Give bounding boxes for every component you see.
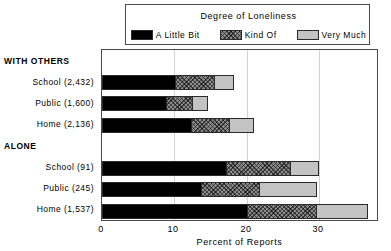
- bar-segment-kind-of: [175, 75, 214, 90]
- bar-segment-kind-of: [191, 118, 229, 133]
- gridline-30: [319, 50, 320, 220]
- group-label-with-others: WITH OTHERS: [4, 56, 96, 66]
- category-label-school-with-others: School (2,432): [2, 77, 94, 87]
- bar-segment-very-much: [214, 75, 234, 90]
- plot-area: [101, 49, 378, 221]
- bar-home-with-others: [102, 118, 254, 133]
- bar-segment-kind-of: [166, 96, 192, 111]
- bar-segment-a-little-bit: [102, 96, 166, 111]
- bar-segment-kind-of: [201, 182, 259, 197]
- legend: Degree of Loneliness A Little Bit Kind O…: [125, 4, 370, 45]
- xtick-10: 10: [167, 224, 178, 234]
- category-label-school-alone: School (91): [2, 162, 94, 172]
- xtick-0: 0: [98, 224, 104, 234]
- bar-segment-a-little-bit: [102, 204, 247, 219]
- bar-segment-a-little-bit: [102, 161, 226, 176]
- legend-items: A Little Bit Kind Of Very Much: [126, 28, 371, 41]
- legend-label-very-much: Very Much: [322, 30, 367, 40]
- bar-segment-kind-of: [247, 204, 316, 219]
- category-label-public-with-others: Public (1,600): [2, 98, 94, 108]
- bar-segment-very-much: [290, 161, 319, 176]
- bar-segment-a-little-bit: [102, 118, 191, 133]
- bar-segment-a-little-bit: [102, 75, 175, 90]
- bar-home-alone: [102, 204, 368, 219]
- bar-school-alone: [102, 161, 319, 176]
- legend-swatch-a-little-bit: [131, 30, 153, 40]
- bar-segment-kind-of: [226, 161, 290, 176]
- legend-swatch-very-much: [297, 30, 319, 40]
- legend-item-a-little-bit: A Little Bit: [131, 30, 200, 40]
- x-axis-title: Percent of Reports: [101, 237, 378, 247]
- bar-segment-a-little-bit: [102, 182, 201, 197]
- category-label-home-with-others: Home (2,136): [2, 119, 94, 129]
- xtick-20: 20: [240, 224, 251, 234]
- bar-public-alone: [102, 182, 317, 197]
- legend-swatch-kind-of: [220, 30, 242, 40]
- legend-title: Degree of Loneliness: [126, 11, 371, 21]
- category-label-home-alone: Home (1,537): [2, 204, 94, 214]
- bar-segment-very-much: [229, 118, 254, 133]
- bar-school-with-others: [102, 75, 234, 90]
- legend-label-kind-of: Kind Of: [245, 30, 277, 40]
- bar-segment-very-much: [192, 96, 208, 111]
- bar-public-with-others: [102, 96, 208, 111]
- xtick-30: 30: [312, 224, 323, 234]
- chart-figure: Degree of Loneliness A Little Bit Kind O…: [0, 0, 391, 251]
- legend-item-kind-of: Kind Of: [220, 30, 277, 40]
- bar-segment-very-much: [259, 182, 317, 197]
- group-label-alone: ALONE: [4, 141, 96, 151]
- category-label-public-alone: Public (245): [2, 183, 94, 193]
- bar-segment-very-much: [316, 204, 368, 219]
- legend-item-very-much: Very Much: [297, 30, 367, 40]
- legend-label-a-little-bit: A Little Bit: [156, 30, 200, 40]
